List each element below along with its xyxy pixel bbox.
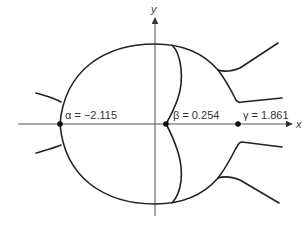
gamma-label: γ = 1.861 <box>243 109 289 121</box>
inner-locus-lower <box>166 124 181 203</box>
beta-label: β = 0.254 <box>173 109 219 121</box>
beta-point <box>163 121 169 127</box>
y-axis-label: y <box>150 3 158 15</box>
left-branch-lower <box>36 145 61 153</box>
x-axis-label: x <box>295 118 302 130</box>
upper-branch-2 <box>236 98 282 102</box>
alpha-point <box>57 121 63 127</box>
outer-locus-lower <box>60 124 236 204</box>
gamma-point <box>235 121 241 127</box>
left-branch-upper <box>36 93 61 102</box>
root-locus-diagram: x y α = −2.115 β = 0.254 γ = 1.861 <box>0 0 307 229</box>
lower-branch-2 <box>218 177 279 203</box>
upper-branch-1 <box>218 43 278 71</box>
lower-branch-1 <box>236 142 282 148</box>
alpha-label: α = −2.115 <box>65 109 117 121</box>
